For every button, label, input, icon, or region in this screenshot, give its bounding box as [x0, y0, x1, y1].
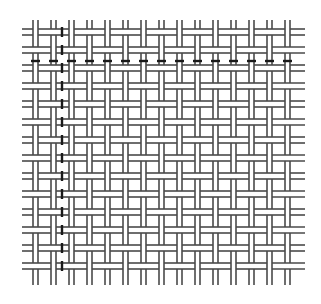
basket-weave-diagram — [0, 0, 321, 304]
